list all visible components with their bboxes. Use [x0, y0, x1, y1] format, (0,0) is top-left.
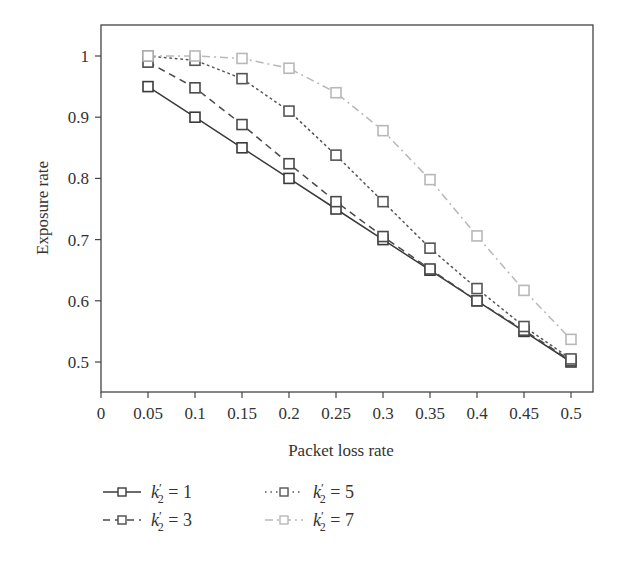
x-axis-title: Packet loss rate [288, 441, 394, 460]
x-tick-label: 0.5 [560, 404, 581, 423]
data-point [378, 126, 388, 136]
x-tick-label: 0.2 [278, 404, 299, 423]
x-tick-label: 0.35 [415, 404, 445, 423]
data-point [566, 334, 576, 344]
data-point [190, 83, 200, 93]
x-tick-label: 0.1 [184, 404, 205, 423]
data-point [378, 232, 388, 242]
data-point [284, 63, 294, 73]
data-point [237, 143, 247, 153]
x-axis: 00.050.10.150.20.250.30.350.40.450.5 [97, 392, 582, 423]
series-group [143, 51, 576, 367]
legend-item: k′2 = 3 [103, 508, 192, 534]
y-tick-label: 0.7 [68, 231, 90, 250]
data-point [284, 159, 294, 169]
y-tick-label: 1 [81, 47, 90, 66]
x-tick-label: 0 [97, 404, 106, 423]
data-point [331, 88, 341, 98]
data-point [237, 53, 247, 63]
legend: k′2 = 1k′2 = 3k′2 = 5k′2 = 7 [103, 480, 354, 534]
y-axis-title: Exposure rate [33, 161, 52, 255]
legend-label: k′2 = 7 [313, 508, 354, 534]
legend-marker [280, 488, 288, 496]
data-point [425, 175, 435, 185]
y-tick-label: 0.6 [68, 292, 89, 311]
legend-label: k′2 = 3 [151, 508, 192, 534]
data-point [143, 82, 153, 92]
data-point [425, 264, 435, 274]
y-tick-label: 0.5 [68, 353, 89, 372]
series-line [148, 62, 571, 361]
x-tick-label: 0.4 [466, 404, 488, 423]
data-point [566, 354, 576, 364]
legend-marker [118, 488, 126, 496]
series-3 [143, 51, 576, 364]
series-line [148, 87, 571, 362]
data-point [472, 284, 482, 294]
x-tick-label: 0.3 [372, 404, 393, 423]
series-line [148, 56, 571, 339]
data-point [331, 197, 341, 207]
legend-item: k′2 = 1 [103, 480, 192, 506]
data-point [190, 51, 200, 61]
legend-marker [280, 516, 288, 524]
data-point [472, 231, 482, 241]
x-tick-label: 0.05 [133, 404, 163, 423]
data-point [143, 51, 153, 61]
data-point [190, 112, 200, 122]
legend-label: k′2 = 5 [313, 480, 354, 506]
x-tick-label: 0.45 [509, 404, 539, 423]
y-axis: 0.50.60.70.80.91 [68, 47, 101, 372]
line-chart: 00.050.10.150.20.250.30.350.40.450.5 0.5… [0, 0, 641, 561]
data-point [472, 296, 482, 306]
data-point [519, 322, 529, 332]
data-point [237, 74, 247, 84]
data-point [519, 285, 529, 295]
data-point [425, 243, 435, 253]
data-point [284, 106, 294, 116]
legend-item: k′2 = 7 [265, 508, 354, 534]
data-point [284, 173, 294, 183]
x-tick-label: 0.15 [227, 404, 257, 423]
x-tick-label: 0.25 [321, 404, 351, 423]
legend-item: k′2 = 5 [265, 480, 354, 506]
legend-label: k′2 = 1 [151, 480, 192, 506]
data-point [378, 197, 388, 207]
legend-marker [118, 516, 126, 524]
data-point [237, 120, 247, 130]
series-2 [143, 57, 576, 366]
y-tick-label: 0.8 [68, 169, 89, 188]
series-1 [143, 82, 576, 367]
data-point [331, 150, 341, 160]
y-tick-label: 0.9 [68, 108, 89, 127]
series-4 [143, 51, 576, 344]
